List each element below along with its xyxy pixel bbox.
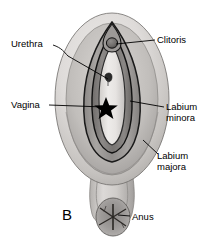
label-labium-minora-line2: minora	[166, 112, 195, 123]
label-labium-majora-line2: majora	[157, 161, 186, 172]
panel-letter: B	[62, 206, 72, 223]
label-labium-majora-line1: Labium	[157, 150, 188, 161]
label-labium-majora: Labium majora	[157, 150, 209, 172]
label-labium-minora-line1: Labium	[166, 101, 197, 112]
label-vagina: Vagina	[11, 99, 40, 110]
anatomy-figure-panel-b: Urethra Clitoris Vagina Labium minora La…	[0, 0, 212, 238]
label-labium-minora: Labium minora	[166, 101, 212, 123]
label-clitoris: Clitoris	[157, 34, 186, 45]
label-anus: Anus	[132, 211, 154, 222]
label-urethra: Urethra	[11, 38, 43, 49]
anus-structure	[96, 198, 130, 236]
